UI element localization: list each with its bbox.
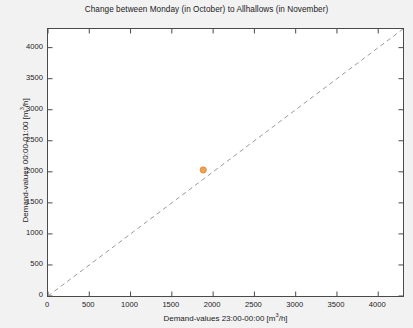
x-tick-label: 500 (68, 301, 108, 309)
x-axis-label-text: Demand-values 23:00-00:00 [m3/h] (163, 314, 287, 323)
y-axis-label: Demand-values 00:00-01:00 [m3/h] (19, 70, 30, 250)
plot-canvas (48, 29, 403, 296)
y-tick-label: 4000 (13, 43, 43, 51)
x-tick-label: 1500 (151, 301, 191, 309)
identity-reference-line (48, 29, 403, 296)
x-tick-label: 2500 (233, 301, 273, 309)
y-tick-label: 0 (13, 291, 43, 299)
y-axis-label-text: Demand-values 00:00-01:00 [m3/h] (20, 98, 29, 222)
plot-area (47, 28, 404, 297)
x-tick-label: 1000 (110, 301, 150, 309)
data-points (200, 167, 206, 173)
chart-figure: Change between Monday (in October) to Al… (0, 0, 413, 328)
x-axis-label: Demand-values 23:00-00:00 [m3/h] (47, 312, 404, 323)
chart-title: Change between Monday (in October) to Al… (0, 5, 413, 14)
data-point (200, 167, 206, 173)
x-tick-label: 4000 (357, 301, 397, 309)
x-tick-label: 2000 (192, 301, 232, 309)
y-tick-label: 500 (13, 260, 43, 268)
x-tick-label: 0 (27, 301, 67, 309)
x-tick-label: 3500 (316, 301, 356, 309)
x-tick-label: 3000 (275, 301, 315, 309)
